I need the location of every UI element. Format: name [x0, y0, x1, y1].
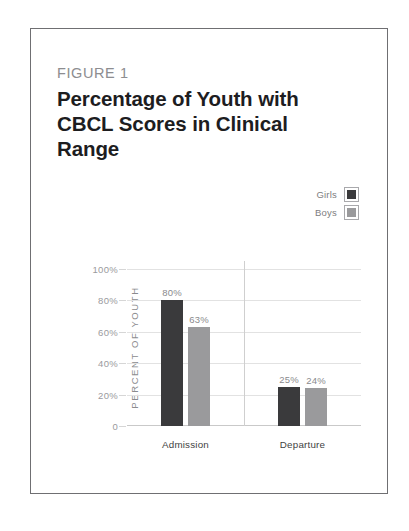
bar-departure-boys: [305, 388, 327, 426]
bar-admission-boys: [188, 327, 210, 426]
legend-label-girls: Girls: [316, 189, 337, 200]
bar-group-admission: 80% 63% Admission: [127, 269, 244, 426]
category-label-admission: Admission: [127, 439, 244, 450]
bar-value-departure-girls: 25%: [279, 374, 299, 385]
legend-label-boys: Boys: [315, 207, 337, 218]
legend-item-girls: Girls: [316, 187, 359, 202]
bar-wrap-admission-boys: 63%: [188, 327, 210, 426]
y-tick-dash-40: [119, 363, 126, 364]
y-tick-label-0: 0: [112, 421, 118, 432]
y-tick-label-80: 80%: [98, 295, 118, 306]
legend-swatch-fill-girls: [347, 190, 356, 199]
chart-plot-area: 100%80%60%40%20%0 80% 63% Admission 25% …: [127, 269, 361, 426]
figure-frame: FIGURE 1 Percentage of Youth with CBCL S…: [30, 28, 388, 494]
y-tick-label-40: 40%: [98, 358, 118, 369]
bar-wrap-admission-girls: 80%: [161, 300, 183, 426]
legend-swatch-boys: [344, 205, 359, 220]
y-tick-dash-80: [119, 300, 126, 301]
bar-admission-girls: [161, 300, 183, 426]
bar-wrap-departure-boys: 24%: [305, 388, 327, 426]
legend-item-boys: Boys: [315, 205, 359, 220]
bar-departure-girls: [278, 387, 300, 426]
bar-value-admission-boys: 63%: [189, 314, 209, 325]
figure-number-label: FIGURE 1: [57, 65, 327, 82]
y-tick-dash-60: [119, 332, 126, 333]
legend-swatch-fill-boys: [347, 208, 356, 217]
legend-swatch-girls: [344, 187, 359, 202]
figure-title: Percentage of Youth with CBCL Scores in …: [57, 86, 327, 161]
bar-value-departure-boys: 24%: [306, 375, 326, 386]
bar-wrap-departure-girls: 25%: [278, 387, 300, 426]
y-tick-dash-20: [119, 395, 126, 396]
bar-group-departure: 25% 24% Departure: [244, 269, 361, 426]
y-tick-label-60: 60%: [98, 326, 118, 337]
figure-heading: FIGURE 1 Percentage of Youth with CBCL S…: [57, 65, 327, 161]
category-label-departure: Departure: [244, 439, 361, 450]
bar-value-admission-girls: 80%: [162, 287, 182, 298]
y-tick-label-100: 100%: [93, 264, 119, 275]
y-tick-dash-0: [119, 426, 126, 427]
y-tick-label-20: 20%: [98, 389, 118, 400]
y-tick-dash-100: [119, 269, 126, 270]
chart-legend: Girls Boys: [315, 187, 359, 220]
